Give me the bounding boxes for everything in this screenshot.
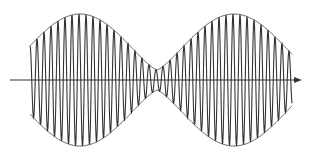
beat-waveform-diagram [0,0,314,157]
axis-arrow-icon [294,77,302,83]
waveform-figure [0,0,314,157]
